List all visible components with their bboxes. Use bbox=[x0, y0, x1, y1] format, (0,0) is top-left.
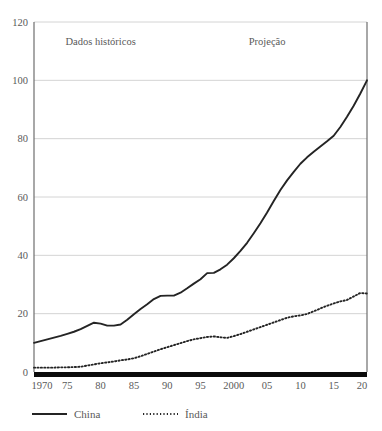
x-axis-tick-label: 90 bbox=[162, 380, 173, 391]
chart-annotation-label: Projeção bbox=[249, 36, 286, 47]
gridlines bbox=[34, 22, 367, 314]
series-line-china bbox=[34, 80, 367, 343]
y-axis-tick-label: 20 bbox=[18, 308, 29, 319]
x-axis-tick-label: 10 bbox=[295, 380, 306, 391]
legend-label-india: Índia bbox=[185, 408, 208, 420]
x-axis-tick-labels: 19707580859095200005101520 bbox=[32, 380, 368, 391]
y-axis-tick-label: 40 bbox=[18, 250, 29, 261]
y-axis-tick-label: 80 bbox=[18, 133, 29, 144]
x-axis-tick-label: 75 bbox=[62, 380, 73, 391]
x-axis-baseline-bar bbox=[34, 372, 367, 377]
series-line-india bbox=[34, 293, 367, 368]
x-axis-tick-label: 2000 bbox=[223, 380, 244, 391]
chart-legend: China Índia bbox=[32, 408, 208, 420]
y-axis-tick-label: 100 bbox=[12, 75, 28, 86]
x-axis-tick-label: 20 bbox=[357, 380, 368, 391]
chart-annotation-label: Dados históricos bbox=[65, 36, 135, 47]
y-axis-tick-labels: 020406080100120 bbox=[12, 17, 28, 378]
y-axis-tick-label: 60 bbox=[18, 192, 29, 203]
legend-label-china: China bbox=[74, 408, 100, 420]
x-axis-tick-label: 15 bbox=[328, 380, 339, 391]
y-axis-tick-label: 120 bbox=[12, 17, 28, 28]
x-axis-tick-label: 05 bbox=[262, 380, 273, 391]
x-axis-tick-label: 85 bbox=[129, 380, 140, 391]
line-chart: 020406080100120 197075808590952000051015… bbox=[0, 0, 382, 431]
chart-figure: 020406080100120 197075808590952000051015… bbox=[0, 0, 382, 431]
chart-annotations: Dados históricosProjeção bbox=[65, 36, 285, 47]
x-axis-tick-label: 80 bbox=[95, 380, 106, 391]
x-axis-tick-label: 95 bbox=[195, 380, 206, 391]
x-axis-tick-label: 1970 bbox=[32, 380, 53, 391]
y-axis-tick-label: 0 bbox=[23, 367, 28, 378]
